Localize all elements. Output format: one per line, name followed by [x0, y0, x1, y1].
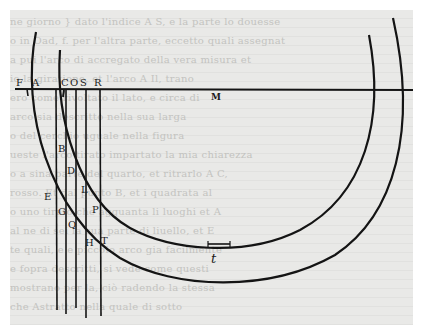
label-q: Q	[68, 219, 76, 230]
label-center: M	[211, 92, 221, 102]
label-l: L	[81, 184, 88, 195]
label-bottom: t	[211, 251, 217, 266]
tick-mark	[63, 90, 64, 97]
horizontal-line	[15, 89, 413, 90]
label-s: S	[80, 77, 87, 88]
geometric-diagram: F A C O S R M B D L E P G Q H T t	[0, 0, 423, 334]
label-a: A	[31, 77, 40, 88]
label-g: G	[58, 206, 66, 217]
label-b: B	[58, 143, 65, 154]
label-f: F	[16, 77, 23, 88]
vertical-line-f	[27, 89, 28, 96]
label-d: D	[67, 165, 75, 176]
vertical-line-r	[100, 89, 101, 316]
label-t: T	[101, 235, 108, 246]
label-p: P	[92, 204, 99, 215]
vertical-line-a	[56, 89, 57, 310]
label-e: E	[44, 191, 51, 202]
label-h: H	[85, 237, 94, 248]
label-c: C	[61, 77, 69, 88]
label-r: R	[94, 77, 102, 88]
inner-arc	[59, 35, 374, 248]
label-o: O	[70, 77, 78, 88]
